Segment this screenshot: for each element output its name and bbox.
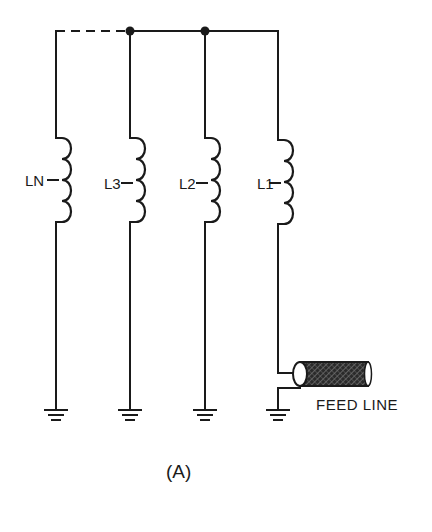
coax-feed-line: FEED LINE (293, 362, 398, 413)
inductor-coil-l2 (205, 138, 220, 222)
figure-caption: (A) (166, 461, 191, 482)
ground-icon (194, 410, 216, 420)
top-bus (56, 27, 278, 36)
circuit-diagram: LN L3 L2 L1 FEED LINE (0, 0, 432, 532)
ground-icon (119, 410, 141, 420)
ground-icon (45, 410, 67, 420)
label-l3: L3 (104, 175, 121, 192)
label-ln: LN (25, 172, 44, 189)
inductor-branch-ln: LN (25, 31, 71, 420)
inductor-branch-l3: L3 (104, 31, 145, 420)
inductor-coil-l3 (130, 138, 145, 222)
label-l1: L1 (257, 175, 274, 192)
feed-line-label: FEED LINE (316, 396, 398, 413)
label-l2: L2 (179, 175, 196, 192)
inductor-branch-l2: L2 (179, 31, 220, 420)
ground-icon (267, 410, 289, 420)
inductor-branch-l1: L1 (257, 31, 300, 420)
